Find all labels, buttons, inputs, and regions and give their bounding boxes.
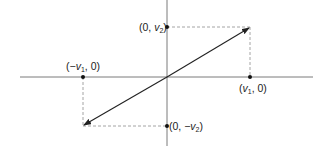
vector-v (167, 28, 249, 77)
label-suffix: , 0) (252, 82, 267, 94)
label-0-neg-v2: (0, −v2) (169, 120, 203, 136)
label-prefix: (0, (139, 21, 154, 33)
label-prefix: (− (66, 60, 76, 72)
label-suffix: , 0) (85, 60, 100, 72)
label-v1-0: (v1, 0) (239, 82, 267, 98)
vector-minus-v (84, 77, 167, 125)
point-v1-0 (248, 75, 252, 79)
label-prefix: (0, − (169, 120, 190, 132)
label-suffix: ) (199, 120, 203, 132)
label-0-v2: (0, v2) (139, 21, 167, 37)
label-neg-v1-0: (−v1, 0) (66, 60, 100, 76)
label-suffix: ) (163, 21, 167, 33)
